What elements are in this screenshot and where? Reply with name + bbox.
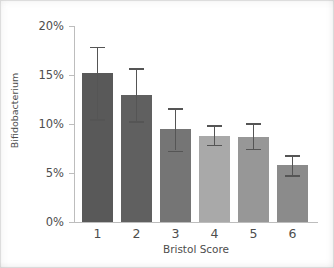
bar-4 (199, 136, 230, 222)
error-cap-lower-5 (246, 149, 261, 151)
error-cap-upper-5 (246, 123, 261, 125)
x-axis-title: Bristol Score (74, 243, 318, 255)
error-cap-upper-4 (207, 125, 222, 127)
error-cap-lower-3 (168, 151, 183, 153)
plot-area (74, 26, 316, 222)
y-tick-mark-0 (69, 222, 74, 223)
x-tick-label-1: 1 (78, 226, 118, 241)
error-cap-upper-2 (129, 68, 144, 70)
y-tick-label-20: 20% (0, 19, 64, 33)
x-tick-label-5: 5 (234, 226, 274, 241)
error-cap-lower-1 (90, 119, 105, 121)
error-cap-upper-6 (285, 155, 300, 157)
x-tick-label-3: 3 (156, 226, 196, 241)
chart-figure: 20% 15% 10% 5% 0% Bifidobacterium (0, 0, 334, 268)
error-line-6 (292, 155, 294, 175)
x-tick-label-6: 6 (273, 226, 313, 241)
error-line-5 (253, 123, 255, 149)
error-line-3 (175, 108, 177, 150)
y-tick-label-0: 0% (0, 215, 64, 229)
error-cap-lower-2 (129, 121, 144, 123)
error-cap-upper-1 (90, 47, 105, 49)
error-line-2 (136, 68, 138, 123)
x-tick-label-2: 2 (117, 226, 157, 241)
error-cap-upper-3 (168, 108, 183, 110)
x-axis-line (74, 222, 318, 223)
y-axis-title: Bifidobacterium (9, 51, 20, 171)
x-tick-label-4: 4 (195, 226, 235, 241)
error-cap-lower-6 (285, 175, 300, 177)
error-line-1 (97, 47, 99, 121)
error-line-4 (214, 125, 216, 145)
error-cap-lower-4 (207, 145, 222, 147)
